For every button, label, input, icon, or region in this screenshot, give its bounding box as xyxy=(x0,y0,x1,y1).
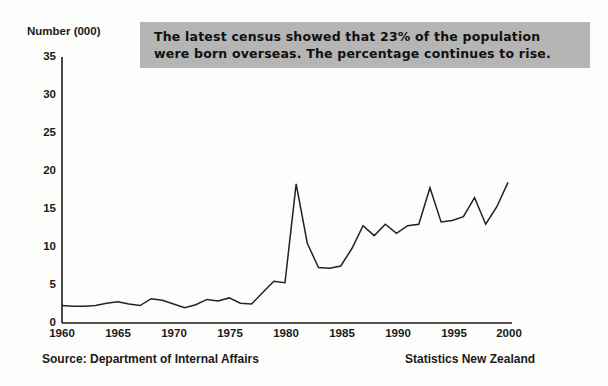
x-tick-1975: 1975 xyxy=(208,327,252,339)
y-tick-20: 20 xyxy=(30,164,56,176)
x-tick-1960: 1960 xyxy=(40,327,84,339)
chart-page: The latest census showed that 23% of the… xyxy=(0,0,608,386)
y-tick-15: 15 xyxy=(30,202,56,214)
source-note: Source: Department of Internal Affairs xyxy=(42,352,259,366)
agency-note: Statistics New Zealand xyxy=(405,352,535,366)
x-tick-1970: 1970 xyxy=(152,327,196,339)
x-tick-1985: 1985 xyxy=(320,327,364,339)
y-tick-5: 5 xyxy=(30,278,56,290)
x-tick-1995: 1995 xyxy=(432,327,476,339)
x-tick-1965: 1965 xyxy=(96,327,140,339)
y-tick-10: 10 xyxy=(30,240,56,252)
axis-lines xyxy=(62,57,512,323)
x-tick-1990: 1990 xyxy=(376,327,420,339)
x-tick-1980: 1980 xyxy=(264,327,308,339)
y-tick-30: 30 xyxy=(30,88,56,100)
y-tick-35: 35 xyxy=(30,50,56,62)
x-tick-2000: 2000 xyxy=(487,327,531,339)
data-series-line xyxy=(62,182,508,307)
y-tick-25: 25 xyxy=(30,126,56,138)
